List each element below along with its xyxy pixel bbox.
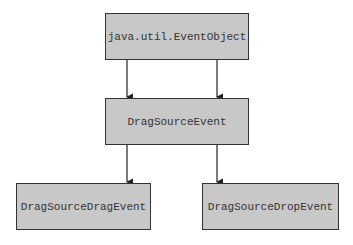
node-label: DragSourceDropEvent — [208, 201, 333, 213]
node-dragsourceevent: DragSourceEvent — [105, 98, 249, 145]
node-dragsourcedropevent: DragSourceDropEvent — [202, 183, 339, 230]
node-label: java.util.EventObject — [108, 31, 247, 43]
node-dragsourcedragevent: DragSourceDragEvent — [16, 183, 151, 230]
node-eventobject: java.util.EventObject — [105, 13, 249, 60]
node-label: DragSourceEvent — [127, 116, 226, 128]
node-label: DragSourceDragEvent — [21, 201, 146, 213]
